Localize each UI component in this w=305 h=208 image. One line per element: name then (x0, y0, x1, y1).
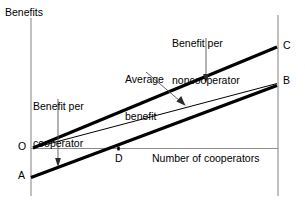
point-marker-D (117, 147, 120, 151)
point-label-b: B (283, 74, 290, 86)
point-label-a: A (18, 169, 25, 181)
annotation-average-line-1: Average (125, 73, 164, 85)
annotation-average-line-2: benefit (125, 110, 164, 122)
benefits-vs-cooperators-chart: Benefits Number of cooperators Benefit p… (0, 0, 305, 208)
annotation-average-benefit: Average benefit (125, 48, 164, 147)
annotation-noncooperator-line-1: Benefit per (172, 37, 240, 49)
point-label-d: D (115, 152, 123, 164)
annotation-noncooperator-line-2: noncooperator (172, 74, 240, 86)
annotation-cooperator-line-2: cooperator (33, 137, 84, 149)
point-label-o: O (18, 140, 26, 152)
point-markers-group (117, 147, 120, 151)
y-axis-title: Benefits (5, 6, 43, 18)
annotation-cooperator-line-1: Benefit per (33, 100, 84, 112)
point-label-c: C (283, 39, 291, 51)
x-axis-title: Number of cooperators (152, 152, 259, 164)
annotation-benefit-per-cooperator: Benefit per cooperator (33, 75, 84, 174)
annotation-benefit-per-noncooperator: Benefit per noncooperator (172, 12, 240, 111)
